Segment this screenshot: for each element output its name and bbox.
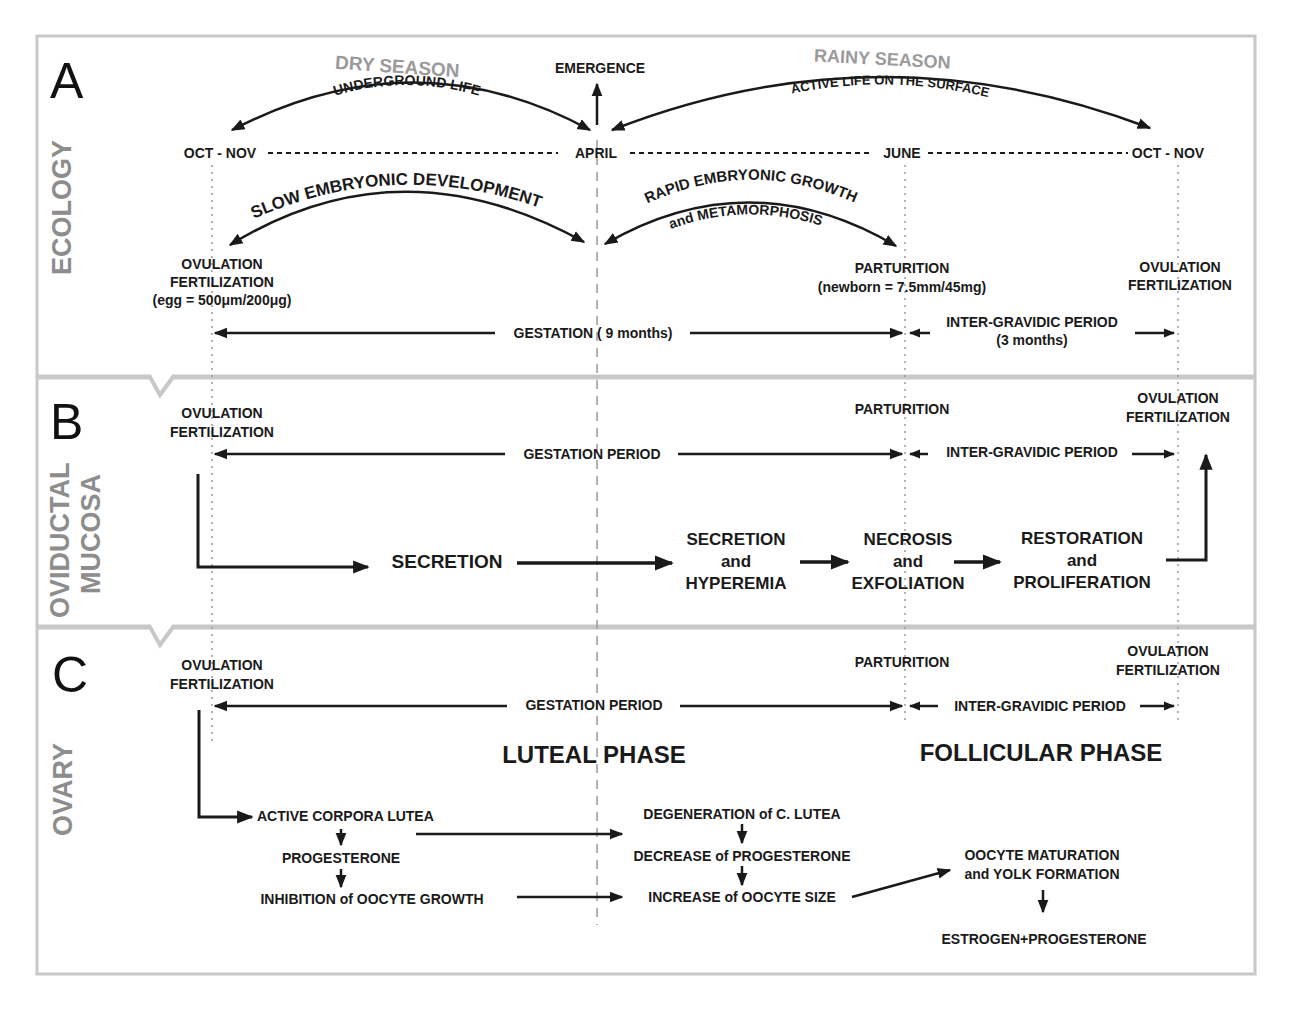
newborn-size-label: (newborn = 7.5mm/45mg)	[818, 279, 986, 296]
intergravidic-label: INTER-GRAVIDIC PERIOD	[954, 698, 1126, 715]
emergence-label: EMERGENCE	[555, 60, 645, 77]
stage-secretion: SECRETION	[392, 551, 503, 574]
decrease-progesterone: DECREASE of PROGESTERONE	[633, 848, 850, 865]
panel-letter-a: A	[50, 56, 83, 106]
slow-development-label: SLOW EMBRYONIC DEVELOPMENT	[248, 170, 545, 223]
intergravidic-duration: (3 months)	[996, 332, 1068, 349]
fertilization-label: FERTILIZATION	[170, 676, 274, 693]
parturition-label: PARTURITION	[855, 401, 950, 418]
gestation-period-label: GESTATION PERIOD	[525, 697, 662, 714]
parturition-label: PARTURITION	[855, 260, 950, 277]
metamorphosis-label: and METAMORPHOSIS	[666, 201, 824, 232]
side-label-ecology: ECOLOGY	[49, 140, 76, 275]
stage-necrosis-2: and	[893, 552, 923, 572]
oocyte-maturation: OOCYTE MATURATION	[964, 847, 1119, 864]
gestation-period-label: GESTATION PERIOD	[523, 446, 660, 463]
stage-restoration-1: RESTORATION	[1021, 529, 1143, 549]
month-april: APRIL	[575, 145, 617, 162]
svg-text:SLOW EMBRYONIC DEVELOPMENT: SLOW EMBRYONIC DEVELOPMENT	[248, 170, 545, 223]
fertilization-label: FERTILIZATION	[1126, 409, 1230, 426]
stage-restoration-2: and	[1067, 551, 1097, 571]
month-oct-nov-left: OCT - NOV	[184, 145, 256, 162]
side-label-ovary: OVARY	[50, 743, 77, 836]
active-life-label: ACTIVE LIFE ON THE SURFACE	[790, 72, 992, 100]
gestation-label: GESTATION ( 9 months)	[514, 325, 673, 342]
ovulation-label: OVULATION	[1139, 259, 1220, 276]
stage-secretion-hyperemia-2: and	[721, 552, 751, 572]
svg-text:and METAMORPHOSIS: and METAMORPHOSIS	[666, 201, 824, 232]
egg-size-label: (egg = 500μm/200μg)	[153, 292, 292, 309]
side-label-oviductal: OVIDUCTAL	[47, 463, 74, 619]
increase-oocyte-size: INCREASE of OOCYTE SIZE	[648, 889, 835, 906]
side-label-mucosa: MUCOSA	[78, 474, 105, 594]
stage-secretion-hyperemia-3: HYPEREMIA	[685, 574, 786, 594]
follicular-phase-label: FOLLICULAR PHASE	[920, 739, 1163, 768]
stage-necrosis-1: NECROSIS	[864, 530, 953, 550]
ovulation-label: OVULATION	[181, 657, 262, 674]
parturition-label: PARTURITION	[855, 654, 950, 671]
inhibition-oocyte-growth: INHIBITION of OOCYTE GROWTH	[260, 891, 483, 908]
intergravidic-label: INTER-GRAVIDIC PERIOD	[946, 314, 1118, 331]
active-corpora-lutea: ACTIVE CORPORA LUTEA	[257, 808, 434, 825]
panel-letter-b: B	[50, 397, 83, 447]
stage-secretion-hyperemia-1: SECRETION	[686, 530, 785, 550]
fertilization-label: FERTILIZATION	[170, 424, 274, 441]
reproductive-cycle-figure: UNDERGROUND LIFE ACTIVE LIFE ON THE SURF…	[0, 0, 1289, 1009]
ovulation-label: OVULATION	[1137, 390, 1218, 407]
degeneration-c-lutea: DEGENERATION of C. LUTEA	[643, 806, 840, 823]
stage-restoration-3: PROLIFERATION	[1013, 573, 1151, 593]
month-oct-nov-right: OCT - NOV	[1132, 145, 1204, 162]
fertilization-label: FERTILIZATION	[170, 274, 274, 291]
svg-text:ACTIVE LIFE ON THE SURFACE: ACTIVE LIFE ON THE SURFACE	[790, 72, 992, 100]
ovulation-label: OVULATION	[181, 256, 262, 273]
progesterone: PROGESTERONE	[282, 850, 400, 867]
svg-text:RAPID EMBRYONIC GROWTH: RAPID EMBRYONIC GROWTH	[642, 166, 861, 207]
panel-letter-c: C	[52, 650, 88, 700]
fertilization-label: FERTILIZATION	[1116, 662, 1220, 679]
ovulation-label: OVULATION	[1127, 643, 1208, 660]
estrogen-progesterone: ESTROGEN+PROGESTERONE	[942, 931, 1147, 948]
rapid-growth-label: RAPID EMBRYONIC GROWTH	[642, 166, 861, 207]
yolk-formation: and YOLK FORMATION	[964, 866, 1119, 883]
ovulation-label: OVULATION	[181, 405, 262, 422]
fertilization-label: FERTILIZATION	[1128, 277, 1232, 294]
intergravidic-label: INTER-GRAVIDIC PERIOD	[946, 444, 1118, 461]
luteal-phase-label: LUTEAL PHASE	[502, 741, 686, 770]
stage-necrosis-3: EXFOLIATION	[851, 574, 964, 594]
month-june: JUNE	[883, 145, 920, 162]
